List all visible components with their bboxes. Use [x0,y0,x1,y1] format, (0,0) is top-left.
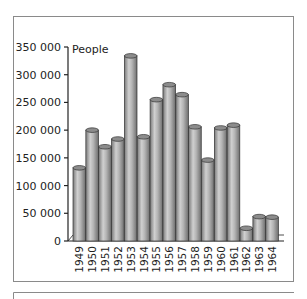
bar-1960 [214,126,227,241]
x-tick-label: 1952 [112,246,124,273]
x-tick-label: 1953 [125,246,137,273]
bar-1964 [266,215,279,241]
y-tick-label: 250 000 [16,96,62,109]
x-tick-label: 1959 [202,246,214,273]
y-tick-label: 350 000 [16,41,62,54]
bar-1954 [137,134,150,241]
x-tick-label: 1957 [176,246,188,273]
x-tick-label: 1960 [215,246,227,273]
bar-1956 [163,82,176,241]
y-tick-label: 100 000 [16,180,62,193]
y-tick-label: 200 000 [16,124,62,137]
bars [73,54,278,241]
bar-1955 [150,97,163,241]
bar-1953 [124,54,137,241]
bar-1962 [240,226,253,241]
y-tick-label: 300 000 [16,69,62,82]
floor-edge [68,235,73,241]
y-tick-label: 150 000 [16,152,62,165]
bar-1951 [99,144,112,241]
x-tick-label: 1962 [240,246,252,273]
x-tick-label: 1950 [86,246,98,273]
y-tick-label: 0 [54,235,61,248]
x-tick-label: 1951 [99,246,111,273]
bar-1958 [189,125,202,241]
bar-1957 [176,92,189,241]
y-tick-label: 50 000 [23,207,62,220]
x-tick-label: 1961 [228,246,240,273]
x-tick-label: 1955 [150,246,162,273]
bar-1950 [86,128,99,241]
bar-chart: 050 000100 000150 000200 000250 000300 0… [0,0,307,299]
x-tick-label: 1958 [189,246,201,273]
bar-1952 [112,137,125,241]
x-tick-label: 1954 [138,246,150,273]
bar-1949 [73,166,86,241]
x-tick-label: 1963 [253,246,265,273]
bar-1963 [253,214,266,241]
x-tick-label: 1956 [163,246,175,273]
bar-1959 [202,158,215,241]
x-tick-label: 1964 [266,246,278,273]
bar-1961 [227,123,240,241]
x-tick-label: 1949 [73,246,85,273]
y-axis-label: People [72,43,109,56]
